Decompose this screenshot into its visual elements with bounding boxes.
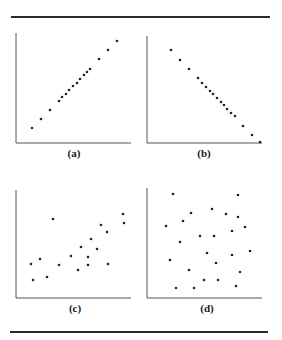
- data-point: [72, 85, 75, 88]
- data-point: [212, 93, 215, 96]
- data-point: [61, 96, 64, 99]
- data-point: [215, 262, 218, 265]
- data-point: [76, 82, 79, 85]
- data-point: [86, 71, 89, 74]
- data-point: [231, 230, 234, 233]
- data-point: [234, 115, 237, 118]
- data-point: [90, 238, 93, 241]
- data-point: [203, 279, 206, 282]
- data-point: [116, 40, 119, 43]
- panel-label-b: (b): [197, 148, 210, 159]
- data-point: [230, 112, 233, 115]
- data-point: [179, 59, 182, 62]
- data-point: [209, 90, 212, 93]
- data-point: [79, 78, 82, 81]
- data-point: [190, 212, 193, 215]
- data-point: [242, 125, 245, 128]
- data-point: [106, 231, 109, 234]
- data-point: [237, 216, 240, 219]
- data-point: [65, 93, 68, 96]
- scatter-panel-a: [16, 33, 131, 143]
- data-point: [211, 208, 214, 211]
- data-point: [39, 258, 42, 261]
- data-point: [217, 279, 220, 282]
- data-point: [205, 86, 208, 89]
- data-point: [70, 255, 73, 258]
- data-point: [216, 97, 219, 100]
- data-point: [77, 269, 80, 272]
- data-point: [68, 89, 71, 92]
- data-point: [87, 256, 90, 259]
- data-point: [235, 285, 238, 288]
- data-point: [30, 263, 33, 266]
- data-point: [96, 248, 99, 251]
- data-point: [165, 225, 168, 228]
- data-point: [123, 222, 126, 225]
- data-point: [32, 279, 35, 282]
- data-point: [239, 271, 242, 274]
- data-point: [89, 68, 92, 71]
- panel-label-c: (c): [69, 303, 81, 314]
- panel-label-d: (d): [200, 303, 213, 314]
- data-point: [58, 100, 61, 103]
- data-point: [107, 263, 110, 266]
- scatter-panel-c: [16, 190, 131, 298]
- scatter-panel-b: [147, 36, 262, 143]
- data-point: [175, 287, 178, 290]
- data-point: [58, 264, 61, 267]
- data-point: [52, 218, 55, 221]
- data-point: [182, 220, 185, 223]
- data-point: [122, 213, 125, 216]
- scatter-figure: [0, 0, 282, 340]
- data-point: [169, 259, 172, 262]
- data-point: [206, 252, 209, 255]
- data-point: [220, 101, 223, 104]
- data-point: [213, 235, 216, 238]
- data-point: [46, 276, 49, 279]
- scatter-panel-d: [147, 188, 262, 298]
- data-point: [197, 77, 200, 80]
- data-point: [251, 134, 254, 137]
- data-point: [83, 74, 86, 77]
- data-point: [31, 127, 34, 130]
- data-point: [231, 254, 234, 257]
- data-point: [100, 224, 103, 227]
- data-point: [244, 226, 247, 229]
- data-point: [188, 68, 191, 71]
- panel-label-a: (a): [68, 148, 81, 159]
- data-point: [188, 269, 191, 272]
- data-point: [49, 109, 52, 112]
- data-point: [98, 58, 101, 61]
- data-point: [40, 118, 43, 121]
- data-point: [249, 250, 252, 253]
- data-point: [179, 241, 182, 244]
- data-point: [172, 193, 175, 196]
- data-point: [237, 194, 240, 197]
- data-point: [225, 213, 228, 216]
- data-point: [223, 104, 226, 107]
- data-point: [170, 49, 173, 52]
- data-point: [201, 82, 204, 85]
- data-point: [80, 246, 83, 249]
- data-point: [87, 264, 90, 267]
- data-point: [107, 49, 110, 52]
- data-point: [259, 141, 262, 144]
- data-point: [193, 287, 196, 290]
- data-point: [199, 235, 202, 238]
- data-point: [226, 108, 229, 111]
